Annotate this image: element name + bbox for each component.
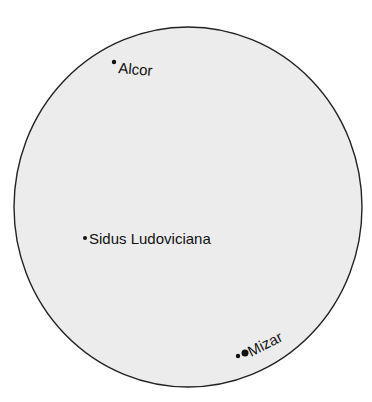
star-sidus-ludoviciana: Sidus Ludoviciana — [83, 230, 211, 247]
star-label-sidus-ludoviciana: Sidus Ludoviciana — [89, 230, 211, 247]
field-of-view-diagram: Alcor Sidus Ludoviciana Mizar — [0, 0, 372, 402]
star-alcor: Alcor — [112, 59, 153, 79]
star-dot-icon — [112, 60, 116, 64]
star-dot-icon — [83, 236, 87, 240]
star-dot-icon — [236, 354, 240, 358]
star-label-alcor: Alcor — [118, 59, 154, 79]
telescope-field-circle — [14, 27, 362, 387]
